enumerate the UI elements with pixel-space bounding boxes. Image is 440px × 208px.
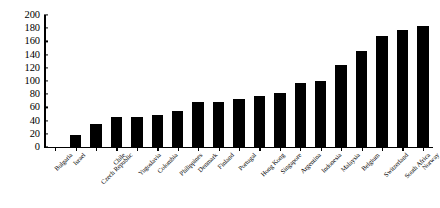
x-tick-slot xyxy=(168,147,188,151)
x-label-slot: Malaysia xyxy=(331,152,351,208)
y-axis-tick-mark xyxy=(44,28,48,29)
y-axis-tick-mark xyxy=(44,14,48,15)
bar xyxy=(397,30,408,147)
x-axis-tick-mark xyxy=(76,147,77,151)
x-axis-category-label: Israel xyxy=(72,152,87,167)
x-axis-tick-mark xyxy=(423,147,424,151)
x-axis-tick-mark xyxy=(55,147,56,151)
y-axis-tick-label: 120 xyxy=(25,63,40,74)
x-axis-tick-mark xyxy=(219,147,220,151)
bar-slot xyxy=(331,15,351,147)
bar xyxy=(90,124,101,147)
y-axis-tick-label: 140 xyxy=(25,49,40,60)
bar-slot xyxy=(270,15,290,147)
x-axis-tick-mark xyxy=(362,147,363,151)
y-axis-tick-mark xyxy=(44,146,48,147)
bar-slot xyxy=(127,15,147,147)
bar xyxy=(254,96,265,147)
bar xyxy=(131,117,142,147)
bar xyxy=(315,81,326,147)
x-axis-tick-mark xyxy=(239,147,240,151)
bar-slot xyxy=(208,15,228,147)
x-axis-tick-mark xyxy=(382,147,383,151)
x-tick-slot xyxy=(229,147,249,151)
x-axis-tick-mark xyxy=(259,147,260,151)
bar-slot xyxy=(65,15,85,147)
y-axis-tick-label: 180 xyxy=(25,23,40,34)
bar-slot xyxy=(168,15,188,147)
y-axis-tick-labels: 020406080100120140160180200 xyxy=(0,15,40,147)
x-axis-tick-mark xyxy=(341,147,342,151)
bar-slot xyxy=(106,15,126,147)
y-axis-tick-mark xyxy=(44,67,48,68)
bar-slot xyxy=(147,15,167,147)
x-label-slot: Philippines xyxy=(168,152,188,208)
x-axis-tick-mark xyxy=(137,147,138,151)
y-axis-tick-mark xyxy=(44,94,48,95)
bar xyxy=(111,117,122,147)
x-axis-category-label: Chile xyxy=(113,152,128,167)
y-axis-tick-label: 40 xyxy=(30,115,40,126)
bar xyxy=(376,36,387,147)
x-label-slot: Belgium xyxy=(351,152,371,208)
y-axis-tick-label: 80 xyxy=(30,89,40,100)
x-label-slot: Norway xyxy=(413,152,433,208)
bar xyxy=(70,135,81,147)
bar xyxy=(356,51,367,147)
bar-slot xyxy=(229,15,249,147)
bar xyxy=(274,93,285,147)
x-axis-tick-mark xyxy=(157,147,158,151)
y-axis-tick-mark xyxy=(44,133,48,134)
y-axis-tick-mark xyxy=(44,41,48,42)
bar xyxy=(192,102,203,147)
x-label-slot: Portugal xyxy=(229,152,249,208)
x-label-slot: Bulgaria xyxy=(45,152,65,208)
y-axis-tick-label: 160 xyxy=(25,36,40,47)
x-tick-slot xyxy=(208,147,228,151)
x-axis-category-label: Norway xyxy=(421,152,440,171)
x-label-slot: Switzerland xyxy=(372,152,392,208)
y-axis-tick-label: 200 xyxy=(25,10,40,21)
x-label-slot: Argentina xyxy=(290,152,310,208)
bar-slot xyxy=(188,15,208,147)
bar xyxy=(335,65,346,148)
x-axis-tick-mark xyxy=(321,147,322,151)
y-axis-tick-mark xyxy=(44,107,48,108)
y-axis-tick-mark xyxy=(44,80,48,81)
bar-slot xyxy=(392,15,412,147)
bar xyxy=(172,111,183,147)
x-label-slot: Israel xyxy=(65,152,85,208)
x-tick-slot xyxy=(106,147,126,151)
x-axis-category-labels: BulgariaIsraelCzech RepublicChileYugosla… xyxy=(45,152,433,208)
bar xyxy=(152,115,163,147)
x-tick-slot xyxy=(45,147,65,151)
x-axis-tick-mark xyxy=(96,147,97,151)
bar-slot xyxy=(372,15,392,147)
x-tick-slot xyxy=(392,147,412,151)
bar xyxy=(233,99,244,147)
x-label-slot: Singapore xyxy=(270,152,290,208)
x-label-slot: Denmark xyxy=(188,152,208,208)
bar-slot xyxy=(45,15,65,147)
x-tick-slot xyxy=(290,147,310,151)
y-axis-tick-mark xyxy=(44,120,48,121)
x-tick-slot xyxy=(127,147,147,151)
y-axis-tick-label: 0 xyxy=(35,142,40,153)
bar-slot xyxy=(290,15,310,147)
x-axis-tick-mark xyxy=(300,147,301,151)
y-axis-tick-label: 60 xyxy=(30,102,40,113)
x-label-slot: Colombia xyxy=(147,152,167,208)
y-axis-tick-mark xyxy=(44,54,48,55)
y-axis-tick-label: 100 xyxy=(25,76,40,87)
x-label-slot: Czech Republic xyxy=(86,152,106,208)
x-axis-tick-mark xyxy=(116,147,117,151)
x-tick-slot xyxy=(86,147,106,151)
x-tick-slot xyxy=(65,147,85,151)
x-label-slot: Indonesia xyxy=(310,152,330,208)
bar xyxy=(213,102,224,147)
bar-slot xyxy=(249,15,269,147)
y-axis-tick-label: 20 xyxy=(30,129,40,140)
x-tick-slot xyxy=(310,147,330,151)
bar-slot xyxy=(310,15,330,147)
